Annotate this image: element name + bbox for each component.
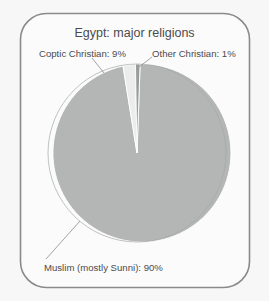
pie-chart-figure: Egypt: major religions Coptic Christian:… <box>0 0 269 301</box>
slice-label-other-christian: Other Christian: 1% <box>152 48 236 59</box>
chart-title: Egypt: major religions <box>74 26 194 40</box>
slice-label-coptic-christian: Coptic Christian: 9% <box>39 48 126 59</box>
slice-label-muslim: Muslim (mostly Sunni): 90% <box>44 262 163 273</box>
pie-slice-muslim[interactable] <box>53 64 231 242</box>
